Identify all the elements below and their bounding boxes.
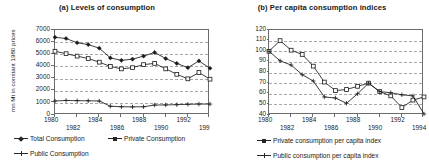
diamond-marker-icon <box>14 135 28 142</box>
panel-b-xtick-1988: 1988 <box>346 116 360 123</box>
panel-b-title: (b) Per capita consumption indices <box>215 3 429 12</box>
panel-b-series-lines <box>269 30 424 115</box>
panel-a-xtick-1990: 1990 <box>154 124 168 131</box>
panel-b-xtick-1982: 1982 <box>280 124 294 131</box>
panel-b-ytick-70: 70 <box>240 79 266 85</box>
panel-a-xtick-1982: 1982 <box>66 124 80 131</box>
figure-container: (a) Levels of consumption mn Mt in const… <box>0 0 429 168</box>
panel-b-legend-label-private: Private consumption per capita index <box>273 137 381 144</box>
panel-b-legend-label-public: Public consumption per capita index <box>273 152 379 159</box>
panel-b-xtick-1994: 1994 <box>412 124 426 131</box>
chart-panel-levels-of-consumption: (a) Levels of consumption mn Mt in const… <box>0 0 214 168</box>
panel-a-xtick-1980: 1980 <box>44 116 58 123</box>
panel-a-xtick-1986: 1986 <box>110 124 124 131</box>
panel-b-legend-item-private[interactable]: Private consumption per capita index <box>257 137 381 144</box>
panel-a-plot-area <box>54 29 209 114</box>
panel-b-xtick-1990: 1990 <box>368 124 382 131</box>
panel-b-xtickmark <box>334 114 335 117</box>
panel-a-xtickmark <box>208 114 209 117</box>
panel-a-y-axis-label: mn Mt in constant 1980 prices <box>9 29 16 112</box>
panel-b-xtickmark <box>290 114 291 117</box>
square-marker-icon <box>257 137 271 144</box>
panel-a-ytick-2000: 2000 <box>24 86 50 92</box>
panel-b-xtickmark <box>379 114 380 117</box>
panel-a-legend-label-private: Private Consumption <box>124 135 185 142</box>
chart-panel-per-capita-consumption-indices: (b) Per capita consumption indices index… <box>215 0 429 168</box>
panel-a-xtick-1994: 199 <box>199 124 210 131</box>
panel-b-xtick-1980: 1980 <box>258 116 272 123</box>
panel-a-legend-item-public[interactable]: Public Consumption <box>14 150 89 157</box>
panel-a-xtick-1984: 1984 <box>88 116 102 123</box>
panel-a-ytick-7000: 7000 <box>24 26 50 32</box>
panel-b-xtickmark <box>422 114 423 117</box>
cross-marker-icon <box>257 152 271 159</box>
panel-a-xtickmark <box>165 114 166 117</box>
panel-a-series-lines <box>55 30 210 115</box>
panel-b-xtick-1984: 1984 <box>302 116 316 123</box>
panel-b-ytick-50: 50 <box>240 100 266 106</box>
panel-b-ytick-100: 100 <box>240 47 266 53</box>
panel-a-xtick-1992: 1992 <box>177 116 191 123</box>
panel-a-ytick-4000: 4000 <box>24 62 50 68</box>
panel-a-legend-label-total: Total Consumption <box>30 135 85 142</box>
panel-b-ytick-90: 90 <box>240 57 266 63</box>
panel-a-title: (a) Levels of consumption <box>0 3 214 12</box>
panel-b-ytick-120: 120 <box>240 26 266 32</box>
panel-a-xtickmark <box>76 114 77 117</box>
panel-a-ytick-5000: 5000 <box>24 50 50 56</box>
panel-a-ytick-6000: 6000 <box>24 38 50 44</box>
panel-a-ytick-3000: 3000 <box>24 74 50 80</box>
panel-a-legend-item-private[interactable]: Private Consumption <box>108 135 185 142</box>
panel-b-xtick-1992: 1992 <box>391 116 405 123</box>
panel-b-ytick-80: 80 <box>240 68 266 74</box>
panel-b-xtick-1986: 1986 <box>324 124 338 131</box>
cross-marker-icon <box>14 150 28 157</box>
panel-b-legend-item-public[interactable]: Public consumption per capita index <box>257 152 379 159</box>
panel-a-xtickmark <box>120 114 121 117</box>
square-marker-icon <box>108 135 122 142</box>
panel-a-xtick-1988: 1988 <box>132 116 146 123</box>
panel-a-legend-item-total[interactable]: Total Consumption <box>14 135 85 142</box>
panel-b-ytick-110: 110 <box>240 36 266 42</box>
panel-b-ytick-60: 60 <box>240 89 266 95</box>
panel-a-ytick-1000: 1000 <box>24 99 50 105</box>
panel-a-legend-label-public: Public Consumption <box>30 150 89 157</box>
panel-b-plot-area <box>268 29 423 114</box>
